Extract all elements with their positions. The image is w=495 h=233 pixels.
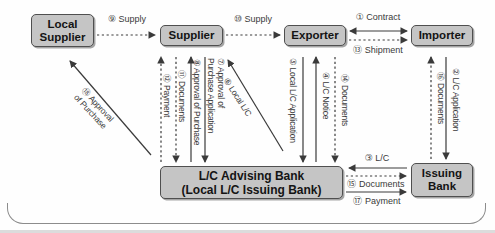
label-flow-8-approval: ⑧ Approval of Purchase <box>192 59 202 145</box>
node-importer: Importer <box>411 25 473 46</box>
label-flow-14-documents: ⑭ Documents <box>340 74 350 126</box>
label-flow-7-approval-application: ⑦ Approval of Purchase Application <box>206 58 225 153</box>
node-exporter: Exporter <box>284 25 346 46</box>
local-lc-flow-diagram: Local Supplier Supplier Exporter Importe… <box>0 0 495 233</box>
label-flow-11-documents: ⑪ Documents <box>177 70 187 122</box>
label-flow-3-lc: ③ L/C <box>346 153 408 163</box>
label-flow-12-payment: ⑫ Payment <box>162 74 172 117</box>
label-flow-1-contract: ① Contract <box>345 12 411 22</box>
node-supplier: Supplier <box>160 25 223 46</box>
node-advising-bank: L/C Advising Bank (Local L/C Issuing Ban… <box>160 166 343 199</box>
node-issuing-bank: Issuing Bank <box>411 163 473 197</box>
node-local-supplier: Local Supplier <box>31 14 94 47</box>
label-flow-15-documents: ⑮ Documents <box>341 179 411 189</box>
label-flow-2-lc-application: ② L/C Application <box>451 68 461 131</box>
label-flow-16-documents: ⑯ Documents <box>436 72 446 124</box>
label-flow-10-supply: ⑩ Supply <box>221 14 285 24</box>
page-edge-line <box>0 230 495 233</box>
label-flow-13-shipment: ⑬ Shipment <box>345 45 411 55</box>
label-flow-5-local-lc-application: ⑤ Local L/C Application <box>288 58 298 143</box>
label-flow-4-lc-notice: ④ L/C Notice <box>321 72 331 119</box>
bottom-bracket <box>7 203 486 224</box>
label-flow-9-supply: ⑨ Supply <box>95 14 159 24</box>
